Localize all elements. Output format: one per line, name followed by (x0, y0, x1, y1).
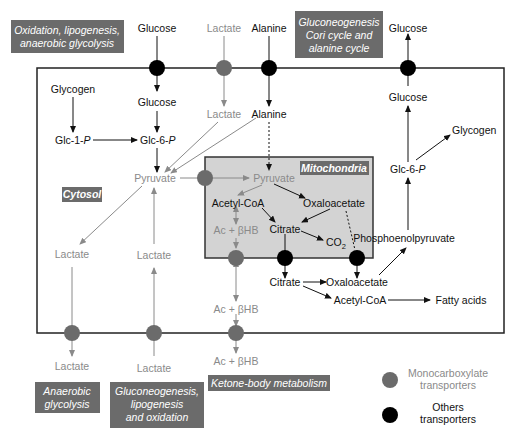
metabolite-glycogen-left: Glycogen (51, 83, 96, 95)
legend-other-label: transporters (420, 413, 476, 425)
transporter-achb-out (228, 325, 244, 341)
metabolite-oxaloacetate-mito: Oxaloacetate (303, 197, 365, 209)
metabolite-lactate-in: Lactate (207, 108, 242, 120)
transporter-oaa-mito (349, 250, 365, 266)
arrow-g6p-glycogen (416, 135, 450, 160)
svg-text:Cytosol: Cytosol (63, 188, 103, 200)
metabolite-lactate-left-out: Lactate (55, 360, 90, 372)
label-anaerobic-glycolysis: Anaerobic glycolysis (35, 382, 100, 413)
metabolite-achb-cyt: Ac + βHB (214, 303, 259, 315)
metabolite-lactate-mid-cyt: Lactate (137, 249, 172, 261)
label-line: glycolysis (45, 398, 91, 410)
label-mitochondria: Mitochondria (300, 161, 369, 175)
metabolite-achb-mito: Ac + βHB (214, 224, 259, 236)
label-line: Anaerobic (42, 385, 91, 397)
metabolite-acetylcoa-mito: Acetyl-CoA (212, 197, 265, 209)
transporter-lactate-mid-in (146, 325, 162, 341)
label-cytosol: Cytosol (62, 187, 102, 202)
metabolite-glucose-in: Glucose (138, 96, 177, 108)
svg-text:Ketone-body metabolism: Ketone-body metabolism (211, 377, 327, 389)
legend-other-label: Others (432, 401, 464, 413)
metabolite-glucose-ext: Glucose (138, 22, 177, 34)
metabolite-citrate-mito: Citrate (270, 223, 301, 235)
label-ketone-body: Ketone-body metabolism (208, 375, 330, 391)
label-line: alanine cycle (309, 42, 370, 54)
svg-text:Mitochondria: Mitochondria (301, 162, 367, 174)
transporter-glucose-in (149, 60, 165, 76)
label-gluconeogenesis-lipogenesis: Gluconeogenesis, lipogenesis and oxidati… (110, 382, 204, 428)
legend-mono-label: Monocarboxylate (408, 367, 488, 379)
metabolite-pyruvate-cyt: Pyruvate (134, 172, 176, 184)
metabolite-achb-out: Ac + βHB (214, 355, 259, 367)
metabolite-alanine-ext: Alanine (251, 22, 286, 34)
metabolite-alanine-in: Alanine (251, 108, 286, 120)
metabolite-glc6p-right: Glc-6-P (390, 163, 426, 175)
metabolite-citrate-cyt: Citrate (270, 276, 301, 288)
legend: Monocarboxylate transporters Others tran… (382, 367, 488, 425)
label-line: Gluconeogenesis, (115, 385, 199, 397)
label-line: and oxidation (126, 411, 189, 423)
label-line: Oxidation, lipogenesis, (14, 24, 120, 36)
label-line: anaerobic glycolysis (20, 37, 115, 49)
label-gluconeogenesis-cori: Gluconeogenesis Cori cycle and alanine c… (295, 11, 383, 58)
metabolite-glucose-right: Glucose (389, 91, 428, 103)
transporter-lactate-left-out (64, 325, 80, 341)
transporter-lactate-in (216, 60, 232, 76)
transporter-achb-mito (228, 250, 244, 266)
arrow-oaa-pep (379, 248, 406, 275)
metabolite-acetylcoa-cyt: Acetyl-CoA (334, 294, 387, 306)
metabolite-glc6p-left: Glc-6-P (140, 134, 176, 146)
legend-mono-icon (382, 372, 398, 388)
transporter-citrate-mito (277, 250, 293, 266)
metabolic-diagram: Oxidation, lipogenesis, anaerobic glycol… (0, 0, 518, 435)
legend-other-icon (382, 407, 398, 423)
metabolite-lactate-mid-out: Lactate (137, 362, 172, 374)
metabolite-glucose-out: Glucose (389, 22, 428, 34)
metabolite-glc1p: Glc-1-P (55, 134, 91, 146)
label-line: Cori cycle and (306, 29, 374, 41)
metabolite-oxaloacetate-cyt: Oxaloacetate (326, 276, 388, 288)
metabolite-lactate-ext: Lactate (207, 22, 242, 34)
metabolite-pep: Phosphoenolpyruvate (353, 232, 455, 244)
label-line: Gluconeogenesis (298, 16, 380, 28)
metabolite-glycogen-right: Glycogen (452, 124, 497, 136)
legend-mono-label: transporters (420, 379, 476, 391)
transporter-pyruvate-mito (197, 170, 213, 186)
label-line: lipogenesis (131, 398, 184, 410)
transporter-alanine-in (261, 60, 277, 76)
metabolite-fatty-acids: Fatty acids (436, 294, 487, 306)
metabolite-lactate-left-cyt: Lactate (55, 248, 90, 260)
transporter-glucose-out (400, 60, 416, 76)
metabolite-pyruvate-mito: Pyruvate (253, 172, 295, 184)
label-oxidation-lipogenesis: Oxidation, lipogenesis, anaerobic glycol… (11, 20, 124, 53)
